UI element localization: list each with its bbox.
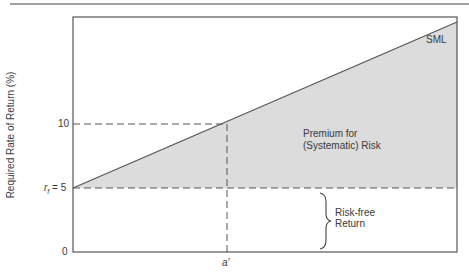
x-tick-prime: ′	[228, 257, 230, 268]
sml-label: SML	[426, 34, 447, 45]
y-axis-label: Required Rate of Return (%)	[5, 72, 16, 199]
y-tick-5: 5	[61, 182, 67, 193]
chart-canvas	[0, 0, 469, 279]
riskfree-label-line2: Return	[335, 218, 365, 229]
brace-icon	[320, 193, 331, 249]
y-tick-rf: rf = 5	[44, 182, 66, 197]
rf-equals: =	[49, 182, 60, 193]
premium-label-line2: (Systematic) Risk	[303, 140, 381, 151]
y-tick-0: 0	[62, 246, 68, 257]
y-tick-10: 10	[58, 118, 69, 129]
riskfree-label-line1: Risk-free	[335, 207, 375, 218]
premium-label-line1: Premium for	[303, 128, 357, 139]
x-tick-a-prime: a′	[222, 257, 229, 268]
